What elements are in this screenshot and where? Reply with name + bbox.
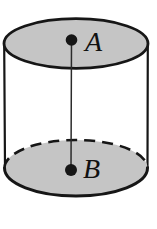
cylinder-figure: A B bbox=[0, 0, 157, 229]
cylinder-left-wall-line bbox=[4, 45, 5, 167]
cylinder-diagram: A B bbox=[0, 0, 157, 229]
point-b-dot bbox=[65, 164, 77, 176]
point-a-label: A bbox=[83, 26, 103, 57]
point-b-label: B bbox=[83, 153, 100, 184]
axis-segment-ab bbox=[71, 41, 72, 169]
point-a-dot bbox=[66, 34, 78, 46]
